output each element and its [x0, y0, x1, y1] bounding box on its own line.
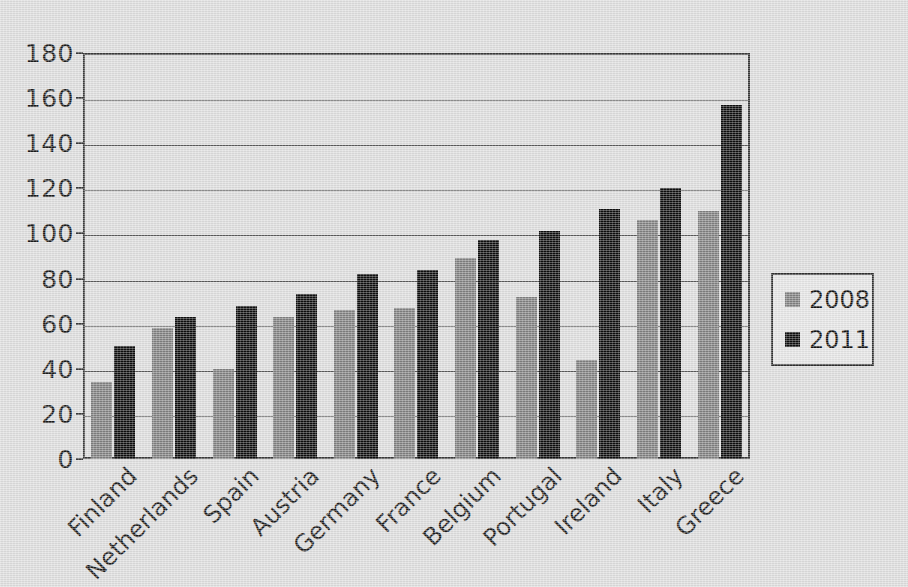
y-tick-mark-20 [76, 413, 83, 415]
y-axis: 020406080100120140160180 [0, 53, 74, 459]
y-tick-label-60: 60 [41, 309, 74, 338]
bar-finland-2011[interactable] [114, 346, 135, 459]
bar-group-italy [629, 53, 690, 459]
bar-germany-2008[interactable] [334, 310, 355, 459]
legend-label-2011: 2011 [809, 328, 870, 352]
y-tick-label-80: 80 [41, 264, 74, 293]
bar-group-germany [326, 53, 387, 459]
bar-chart: 020406080100120140160180 FinlandNetherla… [0, 0, 908, 587]
bar-greece-2011[interactable] [721, 105, 742, 459]
bar-ireland-2008[interactable] [576, 360, 597, 459]
x-axis: FinlandNetherlandsSpainAustriaGermanyFra… [83, 462, 750, 582]
bar-belgium-2008[interactable] [455, 258, 476, 459]
legend-item-2008[interactable]: 2008 [785, 288, 872, 312]
bar-france-2011[interactable] [417, 270, 438, 459]
x-tick-label-ireland: Ireland [550, 462, 628, 540]
y-tick-label-100: 100 [25, 219, 74, 248]
bar-group-greece [689, 53, 750, 459]
bar-group-belgium [447, 53, 508, 459]
y-tick-mark-140 [76, 142, 83, 144]
y-tick-mark-100 [76, 232, 83, 234]
y-tick-label-160: 160 [25, 84, 74, 113]
bar-group-portugal [507, 53, 568, 459]
bar-greece-2008[interactable] [698, 211, 719, 459]
y-tick-label-40: 40 [41, 354, 74, 383]
y-tick-mark-80 [76, 278, 83, 280]
y-tick-label-140: 140 [25, 129, 74, 158]
bar-finland-2008[interactable] [91, 382, 112, 459]
bar-ireland-2011[interactable] [599, 209, 620, 459]
y-tick-mark-180 [76, 52, 83, 54]
bars-layer [83, 53, 750, 459]
bar-italy-2011[interactable] [660, 188, 681, 459]
y-tick-mark-160 [76, 97, 83, 99]
bar-group-ireland [568, 53, 629, 459]
bar-netherlands-2011[interactable] [175, 317, 196, 459]
bar-germany-2011[interactable] [357, 274, 378, 459]
bar-netherlands-2008[interactable] [152, 328, 173, 459]
bar-spain-2011[interactable] [236, 306, 257, 459]
bar-austria-2008[interactable] [273, 317, 294, 459]
bar-france-2008[interactable] [394, 308, 415, 459]
legend[interactable]: 20082011 [771, 273, 874, 366]
y-tick-label-0: 0 [58, 445, 74, 474]
bar-group-finland [83, 53, 144, 459]
bar-portugal-2008[interactable] [516, 297, 537, 459]
y-tick-label-120: 120 [25, 174, 74, 203]
y-tick-label-20: 20 [41, 399, 74, 428]
y-tick-label-180: 180 [25, 39, 74, 68]
bar-group-austria [265, 53, 326, 459]
y-tick-mark-0 [76, 458, 83, 460]
legend-swatch-2008 [785, 292, 800, 307]
y-tick-mark-60 [76, 323, 83, 325]
legend-label-2008: 2008 [809, 288, 870, 312]
legend-swatch-2011 [785, 332, 800, 347]
bar-spain-2008[interactable] [213, 369, 234, 459]
bar-group-spain [204, 53, 265, 459]
y-tick-mark-40 [76, 368, 83, 370]
bar-group-france [386, 53, 447, 459]
bar-portugal-2011[interactable] [539, 231, 560, 459]
legend-item-2011[interactable]: 2011 [785, 328, 872, 352]
bar-austria-2011[interactable] [296, 294, 317, 459]
bar-belgium-2011[interactable] [478, 240, 499, 459]
y-tick-mark-120 [76, 187, 83, 189]
bar-group-netherlands [144, 53, 205, 459]
bar-italy-2008[interactable] [637, 220, 658, 459]
